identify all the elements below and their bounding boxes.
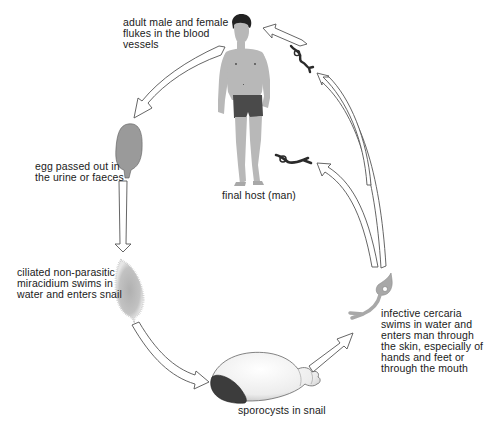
label-final-host: final host (man) (222, 190, 312, 201)
label-line: the urine or faeces (35, 172, 155, 183)
label-sporocysts: sporocysts in snail (238, 405, 348, 416)
label-miracidium: ciliated non-parasitic miracidium swims … (17, 267, 129, 300)
arrow-adult-to-egg (134, 46, 225, 118)
label-cercaria: infective cercaria swims in water and en… (381, 308, 487, 374)
label-egg: egg passed out in the urine or faeces (35, 161, 155, 183)
snail-shell-icon (211, 352, 320, 403)
label-adult-flukes: adult male and female flukes in the bloo… (123, 17, 233, 50)
label-line: water and enters snail (17, 289, 129, 300)
label-line: through the mouth (381, 363, 487, 374)
worm-upper-icon (291, 46, 313, 72)
arrow-miracidium-to-snail (132, 322, 209, 389)
label-line: vessels (123, 39, 233, 50)
arrow-egg-to-miracidium (115, 181, 131, 252)
arrow-to-head (263, 24, 307, 46)
worm-lower-icon (276, 155, 311, 163)
arrow-snail-to-cercaria (309, 333, 353, 372)
